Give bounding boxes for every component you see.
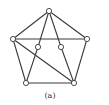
- edge-left-bottom-right: [13, 39, 74, 83]
- figure-caption: (a): [0, 91, 100, 100]
- edges: [13, 11, 87, 83]
- edge-top-right: [49, 11, 87, 39]
- node-top: [46, 8, 51, 13]
- graph-diagram: [0, 0, 109, 105]
- edge-top-inner-left: [38, 11, 49, 47]
- edge-right-bottom-right: [74, 39, 87, 83]
- edge-inner-right-bottom-right: [61, 47, 74, 83]
- node-bottom-left: [23, 80, 28, 85]
- edge-top-inner-right: [49, 11, 61, 47]
- node-left: [10, 36, 15, 41]
- edge-left-bottom-left: [13, 39, 26, 83]
- edge-top-left: [13, 11, 49, 39]
- node-inner-left: [35, 44, 40, 49]
- node-right: [84, 36, 89, 41]
- nodes: [10, 8, 89, 85]
- node-bottom-right: [71, 80, 76, 85]
- node-inner-right: [58, 44, 63, 49]
